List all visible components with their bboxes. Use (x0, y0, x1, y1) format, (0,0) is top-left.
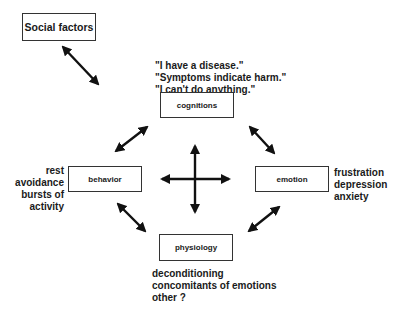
emotion-item: anxiety (334, 191, 387, 203)
physiology-item: other ? (152, 292, 276, 304)
cognitions-annotation: "I have a disease." "Symptoms indicate h… (155, 60, 286, 96)
cognitions-behavior-arrow (116, 127, 147, 151)
cognition-item: "I have a disease." (155, 60, 286, 72)
cognitions-label: cognitions (177, 101, 217, 110)
cognitions-node: cognitions (160, 92, 234, 118)
social-arrow (63, 47, 98, 84)
cognition-item: "Symptoms indicate harm." (155, 72, 286, 84)
emotion-annotation: frustration depression anxiety (334, 167, 387, 203)
arrows-layer (0, 0, 401, 312)
behavior-item: rest (15, 165, 64, 177)
emotion-item: frustration (334, 167, 387, 179)
cognitions-emotion-arrow (250, 127, 274, 153)
emotion-node: emotion (255, 166, 329, 192)
physiology-node: physiology (159, 234, 233, 261)
behavior-item: activity (15, 201, 64, 213)
physiology-item: concomitants of emotions (152, 280, 276, 292)
behavior-annotation: rest avoidance bursts of activity (15, 165, 64, 213)
behavior-node: behavior (68, 166, 142, 192)
social-factors-label: Social factors (25, 21, 94, 33)
emotion-item: depression (334, 179, 387, 191)
social-factors-node: Social factors (22, 13, 96, 41)
physiology-annotation: deconditioning concomitants of emotions … (152, 268, 276, 304)
behavior-item: bursts of (15, 189, 64, 201)
physiology-item: deconditioning (152, 268, 276, 280)
behavior-item: avoidance (15, 177, 64, 189)
behavior-physiology-arrow (118, 204, 145, 231)
emotion-label: emotion (276, 175, 307, 184)
behavior-label: behavior (88, 175, 121, 184)
emotion-physiology-arrow (249, 207, 279, 231)
physiology-label: physiology (175, 243, 217, 252)
